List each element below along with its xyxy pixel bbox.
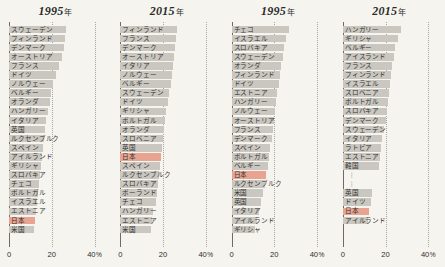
bar-category-label: ラトビア [345, 143, 373, 152]
bar-category-label: ルクセンブルク [234, 179, 282, 188]
bar-category-label: ノルウェー [11, 79, 46, 88]
bar-category-label: ルクセンブルク [11, 134, 59, 143]
bar-category-label: スウェーデン [234, 52, 275, 61]
chart-panel-4: 2015年ハンガリーギリシャベルギーアイスランドフランスフィンランドイスラエルス… [334, 0, 445, 267]
plot-area: チェコイスラエルスロバキアスウェーデンオランダフィンランドドイツエストニアハンガ… [232, 22, 328, 247]
bar-category-label: ハンガリー [234, 97, 269, 106]
bar-category-label: ポーランド [122, 188, 157, 197]
value-axis: 02040% [120, 247, 216, 267]
bar-category-label: 韓国 [345, 161, 359, 170]
axis-tick-0: 0 [7, 250, 11, 259]
bar-category-label: ドイツ [11, 70, 32, 79]
bar-category-label: スロバキア [234, 43, 269, 52]
bar-category-label: イタリア [345, 134, 373, 143]
bar-category-label: 米国 [11, 225, 25, 234]
bar-category-label: オーストリア [11, 52, 52, 61]
bar-rows: チェコイスラエルスロバキアスウェーデンオランダフィンランドドイツエストニアハンガ… [232, 25, 328, 244]
axis-unit: % [207, 251, 213, 258]
bar-category-label: 米国 [122, 225, 136, 234]
bar-category-label: フランス [122, 34, 150, 43]
value-axis: 02040% [232, 247, 328, 267]
axis-tick-20: 20 [159, 250, 167, 259]
panel-title: 1995年 [223, 0, 334, 22]
bar-category-label: デンマーク [122, 43, 157, 52]
axis-unit: % [429, 251, 435, 258]
bar-category-label: ベルギー [234, 161, 262, 170]
plot-area: ハンガリーギリシャベルギーアイスランドフランスフィンランドイスラエルスロベニアポ… [343, 22, 439, 247]
bar-category-label: ベルギー [122, 79, 150, 88]
bar-category-label: スウェーデン [345, 125, 386, 134]
axis-tick-40: 40% [87, 250, 102, 259]
bar-category-label: フランス [345, 61, 373, 70]
bar-category-label: アイルランド [345, 216, 386, 225]
bar-row: 米国 [120, 225, 216, 234]
axis-tick-20: 20 [381, 250, 389, 259]
bar-category-label: 英国 [11, 125, 25, 134]
bar-category-label: ルクセンブルク [122, 170, 170, 179]
chart-figure: 1995年スウェーデンフィンランドデンマークオーストリアフランスドイツノルウェー… [0, 0, 445, 267]
bar-category-label: 英国 [345, 188, 359, 197]
bar-category-label: イスラエル [234, 34, 269, 43]
axis-tick-20: 20 [48, 250, 56, 259]
bar-category-label: ドイツ [345, 197, 366, 206]
plot-area: フィンランドフランスデンマークオーストリアイタリアノルウェーベルギースウェーデン… [120, 22, 216, 247]
bar-category-label: スウェーデン [11, 25, 52, 34]
bar-category-label: エストニア [122, 216, 157, 225]
bar-category-label: オランダ [11, 97, 39, 106]
bar-category-label: エストニア [11, 206, 46, 215]
bar-category-label: フィンランド [345, 70, 386, 79]
bar-category-label: ドイツ [122, 97, 143, 106]
value-axis: 02040% [343, 247, 439, 267]
axis-unit: % [96, 251, 102, 258]
bar-category-label: アイルランド [234, 216, 275, 225]
bar-category-label: デンマーク [345, 116, 380, 125]
axis-tick-0: 0 [118, 250, 122, 259]
bar-category-label: デンマーク [11, 43, 46, 52]
bar-category-label: ドイツ [234, 79, 255, 88]
bar-category-label: ハンガリー [11, 106, 46, 115]
bar-category-label: チェコ [234, 25, 255, 34]
axis-tick-40: 40% [310, 250, 325, 259]
bar-category-label: 日本 [11, 216, 25, 225]
chart-panel-3: 1995年チェコイスラエルスロバキアスウェーデンオランダフィンランドドイツエスト… [223, 0, 334, 267]
bar-category-label: 日本 [234, 170, 248, 179]
bar-row: 韓国 [343, 161, 439, 170]
bar-category-label: オランダ [122, 125, 150, 134]
bar-category-label: エストニア [345, 152, 380, 161]
bar-category-label: 英国 [122, 143, 136, 152]
bar-category-label: スロバキア [122, 179, 157, 188]
panel-title-unit: 年 [63, 8, 72, 17]
bar-category-label: オーストリア [234, 116, 275, 125]
axis-tick-0: 0 [341, 250, 345, 259]
panel-title: 2015年 [334, 0, 445, 22]
bar-category-label: ベルギー [345, 43, 373, 52]
axis-tick-20: 20 [270, 250, 278, 259]
bar-category-label: フィンランド [122, 25, 163, 34]
bar-category-label: ポルトガル [234, 152, 269, 161]
bar-category-label: ギリシャ [345, 34, 373, 43]
bar-category-label: チェコ [11, 179, 32, 188]
bar-category-label: フランス [234, 125, 262, 134]
bar-category-label: 日本 [345, 206, 359, 215]
bar-category-label: アイスランド [345, 52, 386, 61]
bar-category-label: ノルウェー [122, 70, 157, 79]
bar-category-label: スロバキア [11, 170, 46, 179]
panel-title: 2015年 [111, 0, 222, 22]
bar-category-label: ポルトガル [122, 116, 157, 125]
omitted-rows-ellipsis: ⋮ [349, 180, 356, 189]
bar-category-label: ノルウェー [234, 106, 269, 115]
bar-category-label: 日本 [122, 152, 136, 161]
panel-title: 1995年 [0, 0, 111, 22]
bar-rows: ハンガリーギリシャベルギーアイスランドフランスフィンランドイスラエルスロベニアポ… [343, 25, 439, 244]
bar-category-label: フランス [11, 61, 39, 70]
bar-category-label: スウェーデン [122, 88, 163, 97]
bar-category-label: デンマーク [234, 134, 269, 143]
bar-category-label: イスラエル [345, 79, 380, 88]
bar-category-label: イタリア [234, 206, 262, 215]
bar-category-label: フィンランド [234, 70, 275, 79]
bar-category-label: 英国 [234, 197, 248, 206]
bar-category-label: ハンガリー [122, 206, 157, 215]
panel-title-unit: 年 [286, 8, 295, 17]
bar-row-gap: ⋮ [343, 171, 439, 180]
bar-category-label: チェコ [122, 197, 143, 206]
